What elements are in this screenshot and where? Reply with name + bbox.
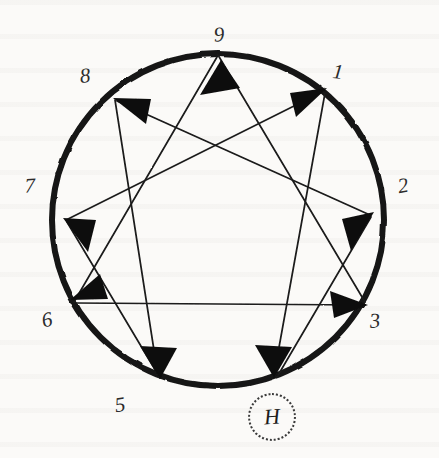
arrow-2-to-8 bbox=[117, 101, 370, 215]
arrow-7-to-1 bbox=[66, 91, 324, 220]
arrow-1-to-4 bbox=[274, 93, 325, 375]
enneagram-canvas: 9 1 2 3 5 6 7 8 H bbox=[0, 0, 439, 458]
arrowhead-at-3 bbox=[330, 291, 368, 318]
arrow-8-to-5 bbox=[115, 100, 158, 376]
point-label-3[interactable]: 3 bbox=[369, 310, 381, 332]
arrowhead-at-5 bbox=[140, 346, 177, 379]
point-label-1[interactable]: 1 bbox=[332, 61, 345, 83]
point-label-9[interactable]: 9 bbox=[213, 24, 225, 46]
h-marker-circle[interactable]: H bbox=[248, 393, 296, 441]
arrowheads bbox=[63, 60, 374, 379]
outer-circle bbox=[52, 54, 384, 386]
point-label-7[interactable]: 7 bbox=[24, 175, 36, 197]
enneagram-drawing bbox=[0, 0, 439, 458]
arrow-4-to-2 bbox=[277, 217, 371, 377]
arrowhead-at-2 bbox=[342, 212, 374, 251]
arrowhead-at-7 bbox=[63, 218, 96, 252]
point-label-8[interactable]: 8 bbox=[79, 65, 92, 87]
h-marker-glyph: H bbox=[263, 405, 280, 428]
